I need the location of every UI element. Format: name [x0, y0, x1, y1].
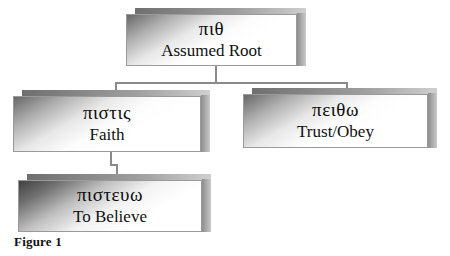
node-face: πιστις Faith	[13, 96, 201, 152]
edge-root-stem	[215, 66, 217, 83]
node-side-bevel	[428, 93, 437, 148]
node-pisteuo[interactable]: πιστευω To Believe	[18, 174, 211, 232]
word-root-tree-diagram: πιθ Assumed Root πιστις Faith πειθω Trus…	[0, 0, 450, 256]
node-greek-term: πιθ	[199, 19, 224, 39]
node-assumed-root[interactable]: πιθ Assumed Root	[126, 8, 306, 66]
node-side-bevel	[202, 179, 211, 232]
node-gloss: Trust/Obey	[297, 122, 374, 142]
node-face: πειθω Trust/Obey	[243, 94, 428, 148]
node-gloss: Faith	[90, 125, 125, 145]
node-side-bevel	[201, 95, 210, 152]
node-face: πιστευω To Believe	[18, 180, 202, 232]
node-peitho[interactable]: πειθω Trust/Obey	[243, 88, 437, 148]
node-pistis[interactable]: πιστις Faith	[13, 90, 210, 152]
node-greek-term: πειθω	[312, 100, 359, 120]
node-face: πιθ Assumed Root	[126, 14, 297, 66]
node-gloss: To Believe	[73, 207, 147, 227]
node-side-bevel	[297, 13, 306, 66]
node-greek-term: πιστις	[83, 103, 131, 123]
node-greek-term: πιστευω	[77, 185, 143, 205]
edge-root-crossbar	[115, 82, 348, 84]
node-gloss: Assumed Root	[161, 41, 262, 61]
figure-caption: Figure 1	[14, 234, 62, 250]
